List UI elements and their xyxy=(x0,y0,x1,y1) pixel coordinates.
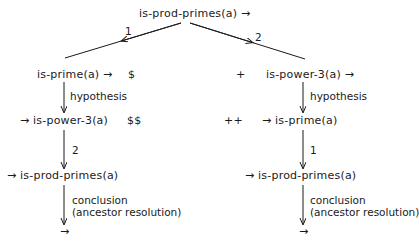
right-node-is-power-3: is-power-3(a) → xyxy=(266,69,354,81)
left-edge-label-2: 2 xyxy=(72,144,79,156)
right-node-is-prod-primes: → is-prod-primes(a) xyxy=(245,170,356,182)
right-node-empty-clause: → xyxy=(299,226,308,238)
left-node-is-prime: is-prime(a) → xyxy=(37,69,112,81)
edge-label-2: 2 xyxy=(255,31,262,43)
right-edge-label-hypothesis: hypothesis xyxy=(310,90,367,102)
left-node-is-power-3: → is-power-3(a) xyxy=(20,115,108,127)
left-edge-label-hypothesis: hypothesis xyxy=(70,90,127,102)
left-marker-double-dollar: $$ xyxy=(127,115,141,127)
root-node-is-prod-primes: is-prod-primes(a) → xyxy=(139,8,250,20)
right-node-is-prime: → is-prime(a) xyxy=(262,115,337,127)
left-node-empty-clause: → xyxy=(60,226,69,238)
right-edge-label-conclusion: conclusion xyxy=(310,194,366,206)
right-marker-double-plus: ++ xyxy=(224,115,243,127)
left-node-is-prod-primes: → is-prod-primes(a) xyxy=(7,170,118,182)
edge-label-1: 1 xyxy=(125,25,132,37)
left-edge-label-ancestor-resolution: (ancestor resolution) xyxy=(72,206,181,218)
edge-root-to-is-prime xyxy=(65,23,181,58)
left-marker-dollar: $ xyxy=(128,69,135,81)
left-edge-label-conclusion: conclusion xyxy=(72,194,128,206)
edge-root-to-is-power-3 xyxy=(190,23,305,59)
right-edge-label-1: 1 xyxy=(310,144,317,156)
right-edge-label-ancestor-resolution: (ancestor resolution) xyxy=(310,206,419,218)
right-marker-plus: + xyxy=(236,69,245,81)
